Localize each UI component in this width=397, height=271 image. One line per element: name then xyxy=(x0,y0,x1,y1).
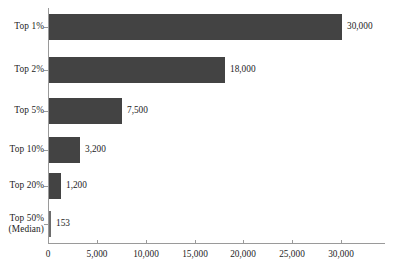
bar-value-label: 7,500 xyxy=(127,105,148,116)
x-axis-tick-mark xyxy=(243,240,244,244)
category-label: Top 20% xyxy=(0,180,44,191)
x-axis-tick-mark xyxy=(292,240,293,244)
bar xyxy=(49,14,342,40)
bar-value-label: 30,000 xyxy=(347,21,373,32)
y-axis-line xyxy=(48,8,49,243)
bar xyxy=(49,57,225,83)
bar-value-label: 153 xyxy=(56,218,70,229)
bar-value-label: 1,200 xyxy=(66,180,87,191)
category-label: Top 10% xyxy=(0,144,44,155)
bar-value-label: 18,000 xyxy=(230,64,256,75)
x-axis-tick-label: 20,000 xyxy=(230,249,256,260)
bar xyxy=(49,137,80,163)
x-axis-tick-label: 25,000 xyxy=(279,249,305,260)
bar xyxy=(49,98,122,124)
x-axis-tick-mark xyxy=(195,240,196,244)
x-axis-tick-label: 15,000 xyxy=(182,249,208,260)
category-label: Top 50% (Median) xyxy=(0,213,44,234)
x-axis-tick-label: 5,000 xyxy=(87,249,108,260)
category-label: Top 5% xyxy=(0,105,44,116)
x-axis-tick-mark xyxy=(97,240,98,244)
category-label: Top 2% xyxy=(0,64,44,75)
bar xyxy=(49,211,51,237)
x-axis-tick-mark xyxy=(146,240,147,244)
x-axis-tick-mark xyxy=(341,240,342,244)
x-axis-line xyxy=(48,243,385,244)
bar xyxy=(49,173,61,199)
x-axis-tick-label: 30,000 xyxy=(328,249,354,260)
bar-chart: Top 1%30,000Top 2%18,000Top 5%7,500Top 1… xyxy=(0,0,397,271)
category-label: Top 1% xyxy=(0,21,44,32)
x-axis-tick-label: 10,000 xyxy=(133,249,159,260)
x-axis-tick-label: 0 xyxy=(46,249,51,260)
bar-value-label: 3,200 xyxy=(85,144,106,155)
